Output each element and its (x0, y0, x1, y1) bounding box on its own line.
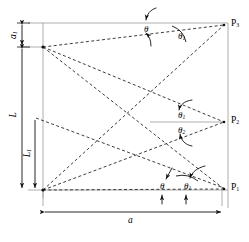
angle-label-mid-theta-2: θ2 (178, 126, 185, 136)
vertex-lower-left-dot (41, 188, 44, 191)
geometry-diagram: P3 P2 P1 θ θ1 θ1 θ2 θ θ1 a1 L L1 a (0, 0, 249, 242)
point-p2-sub: 2 (236, 119, 239, 125)
dimension-label-a: a (128, 216, 133, 226)
pointer-top-theta-up (146, 33, 151, 46)
angle-arcs (172, 26, 198, 181)
point-p1-sub: 1 (236, 186, 239, 192)
ray-upperleft-to-p3 (43, 25, 224, 47)
diagram-canvas (0, 0, 249, 242)
ray-upperleft-to-p2 (43, 47, 224, 122)
dim-L1-symbol: L (22, 152, 32, 157)
point-p1: P1 (231, 183, 239, 193)
dim-a1-symbol: a (8, 34, 18, 39)
point-p3-dot (223, 24, 226, 27)
dim-L1-sub: 1 (26, 149, 32, 152)
angle-label-mid-theta-1: θ1 (178, 111, 185, 121)
ray-lowerleft-to-p3 (43, 25, 224, 190)
point-p3-sub: 3 (236, 22, 239, 28)
angle-mid-theta2-sub: 2 (182, 129, 185, 135)
dimension-label-L1: L1 (23, 146, 33, 160)
angle-top-theta1-sub: 1 (182, 35, 185, 41)
sight-rays (36, 25, 224, 190)
angle-mid-theta1-sub: 1 (182, 114, 185, 120)
ray-midleft-to-p1 (36, 118, 224, 188)
dim-a-symbol: a (128, 215, 133, 225)
dimension-label-a1: a1 (9, 28, 19, 42)
angle-bottom-theta1-sub: 1 (188, 185, 191, 191)
dim-L-symbol: L (8, 112, 18, 117)
angle-label-top-theta-1: θ1 (178, 32, 185, 42)
pointer-top-theta (146, 8, 156, 20)
pointer-bottom-theta-a (166, 168, 172, 179)
point-p3: P3 (231, 19, 239, 29)
angle-bottom-theta-symbol: θ (160, 181, 164, 191)
point-p2-dot (223, 121, 226, 124)
pointer-arrows (146, 8, 205, 204)
point-p1-dot (223, 188, 226, 191)
pointer-mid-theta2 (180, 134, 192, 146)
angle-label-bottom-theta: θ (160, 182, 164, 192)
angle-label-top-theta: θ (144, 25, 148, 35)
angle-label-bottom-theta-1: θ1 (184, 182, 191, 192)
angle-top-theta-symbol: θ (144, 24, 148, 34)
dimension-label-L: L (9, 108, 19, 122)
ray-upperleft-to-p1 (43, 47, 224, 189)
vertex-upper-left-dot (41, 45, 44, 48)
dim-a1-sub: 1 (12, 31, 18, 34)
pointer-mid-theta1 (179, 100, 192, 110)
point-p2: P2 (231, 116, 239, 126)
